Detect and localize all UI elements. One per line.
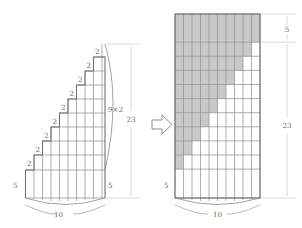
step-label: 2 [36,145,41,154]
step-label: 2 [44,131,49,140]
right-total-height-label: 23 [282,121,292,130]
diagram-canvas: 2 2 2 2 2 2 2 2 2 5 5 9×2 10 [0,0,302,228]
right-panel-group: 5 10 5 23 [164,14,296,219]
right-width-label: 10 [213,210,223,219]
left-width-bracket [26,205,58,214]
left-row-lines [26,57,106,198]
step-label: 2 [27,159,32,168]
left-width-bracket-2 [73,205,105,214]
left-total-height-label: 23 [126,115,136,124]
left-bottom-arc [26,198,106,205]
step-label: 2 [70,89,75,98]
step-label: 2 [95,47,100,56]
staircase-rearrangement-figure: 2 2 2 2 2 2 2 2 2 5 5 9×2 10 [0,0,302,228]
rightwards-open-arrow-icon [152,115,172,134]
right-width-bracket [175,205,208,214]
right-width-bracket-2 [227,205,260,214]
step-label: 2 [78,75,83,84]
transform-arrow-group [152,115,172,134]
left-right-height-label: 5 [108,181,113,190]
right-base-height-label: 5 [164,181,169,190]
step-label: 2 [87,61,92,70]
left-staircase-outline [26,57,106,198]
step-label: 2 [61,103,66,112]
left-step-labels: 2 2 2 2 2 2 2 2 2 [27,47,100,168]
right-top-band-label: 5 [285,25,290,34]
left-width-label: 10 [54,210,64,219]
right-dimension-lines [260,14,296,198]
left-base-height-label: 5 [13,181,18,190]
step-label: 2 [53,117,58,126]
left-stack-label: 9×2 [108,105,123,114]
left-panel-group: 2 2 2 2 2 2 2 2 2 5 5 9×2 10 [13,44,140,219]
